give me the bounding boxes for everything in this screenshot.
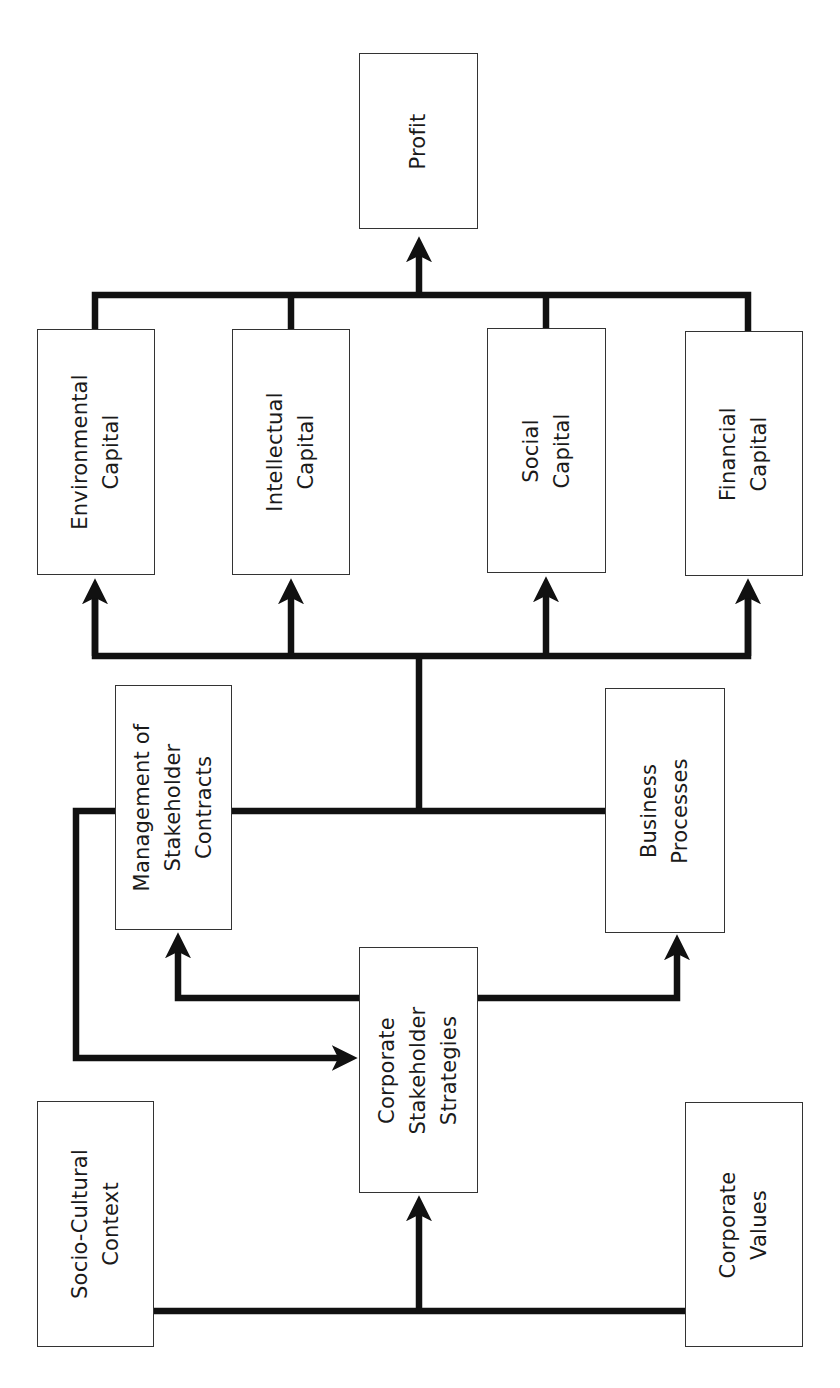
capitals-to-profit-bus: [95, 295, 748, 331]
environmental-capital-box: Environmental Capital: [37, 329, 155, 575]
strategies-to-business: [478, 946, 677, 998]
profit-label: Profit: [403, 113, 434, 169]
business-processes-box: Business Processes: [605, 688, 725, 933]
corporate-stakeholder-strategies-box: Corporate Stakeholder Strategies: [359, 947, 478, 1193]
socio-cultural-context-label: Socio-Cultural Context: [65, 1149, 127, 1299]
business-processes-label: Business Processes: [634, 758, 696, 863]
management-stakeholder-contracts-box: Management of Stakeholder Contracts: [115, 685, 232, 930]
lower-bus: [95, 590, 748, 656]
corporate-values-label: Corporate Values: [713, 1171, 775, 1278]
intellectual-capital-label: Intellectual Capital: [260, 392, 322, 511]
corporate-values-box: Corporate Values: [685, 1102, 803, 1347]
strategies-to-management: [178, 944, 359, 998]
stakeholder-value-diagram: Profit Environmental Capital Intellectua…: [0, 0, 840, 1388]
corporate-stakeholder-strategies-label: Corporate Stakeholder Strategies: [372, 1006, 465, 1134]
profit-box: Profit: [359, 53, 478, 229]
financial-capital-label: Financial Capital: [713, 407, 775, 501]
socio-cultural-context-box: Socio-Cultural Context: [37, 1101, 154, 1347]
environmental-capital-label: Environmental Capital: [65, 374, 127, 529]
financial-capital-box: Financial Capital: [685, 331, 803, 576]
social-capital-label: Social Capital: [515, 413, 577, 488]
intellectual-capital-box: Intellectual Capital: [232, 329, 350, 575]
social-capital-box: Social Capital: [487, 328, 606, 573]
management-stakeholder-contracts-label: Management of Stakeholder Contracts: [127, 724, 220, 892]
